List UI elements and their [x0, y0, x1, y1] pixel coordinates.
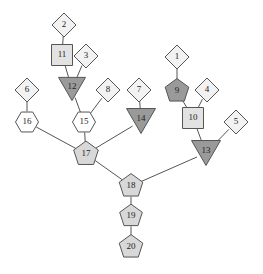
graph-edge	[95, 161, 122, 180]
node-shape-hexagon	[73, 112, 96, 132]
graph-node-19[interactable]: 19	[120, 204, 143, 225]
node-shape-pentagon	[74, 141, 99, 164]
node-shape-diamond	[74, 44, 98, 68]
node-shape-triangle-down	[127, 109, 156, 134]
node-shape-pentagon	[165, 79, 189, 101]
graph-canvas: 1234567891011121314151617181920	[0, 0, 263, 274]
graph-node-6[interactable]: 6	[15, 78, 39, 102]
graph-node-14[interactable]: 14	[127, 109, 156, 134]
graph-edge	[141, 157, 197, 182]
node-shape-pentagon	[120, 204, 143, 225]
graph-node-11[interactable]: 11	[52, 45, 73, 66]
graph-svg: 1234567891011121314151617181920	[0, 0, 263, 274]
graph-node-12[interactable]: 12	[59, 77, 86, 100]
node-shape-diamond	[165, 45, 189, 69]
graph-edge	[36, 127, 76, 149]
graph-node-18[interactable]: 18	[119, 174, 143, 196]
node-shape-triangle-down	[192, 141, 221, 166]
node-shape-diamond	[127, 78, 151, 102]
node-shape-square	[52, 45, 73, 66]
node-layer: 1234567891011121314151617181920	[15, 13, 248, 257]
graph-node-10[interactable]: 10	[183, 108, 204, 129]
node-shape-hexagon	[16, 112, 39, 132]
node-shape-diamond	[195, 78, 219, 102]
graph-node-1[interactable]: 1	[165, 45, 189, 69]
graph-node-15[interactable]: 15	[73, 112, 96, 132]
graph-node-20[interactable]: 20	[119, 235, 143, 257]
graph-node-16[interactable]: 16	[16, 112, 39, 132]
node-shape-square	[183, 108, 204, 129]
graph-node-4[interactable]: 4	[195, 78, 219, 102]
graph-edge	[75, 98, 80, 112]
node-shape-diamond	[15, 78, 39, 102]
graph-node-2[interactable]: 2	[52, 13, 76, 37]
graph-node-9[interactable]: 9	[165, 79, 189, 101]
graph-node-7[interactable]: 7	[127, 78, 151, 102]
graph-node-8[interactable]: 8	[96, 78, 120, 102]
graph-edge	[90, 98, 101, 113]
node-shape-diamond	[52, 13, 76, 37]
graph-node-17[interactable]: 17	[74, 141, 99, 164]
graph-node-3[interactable]: 3	[74, 44, 98, 68]
node-shape-pentagon	[119, 174, 143, 196]
node-shape-diamond	[96, 78, 120, 102]
node-shape-triangle-down	[59, 77, 86, 100]
graph-node-13[interactable]: 13	[192, 141, 221, 166]
graph-edge	[96, 126, 133, 148]
node-shape-pentagon	[119, 235, 143, 257]
